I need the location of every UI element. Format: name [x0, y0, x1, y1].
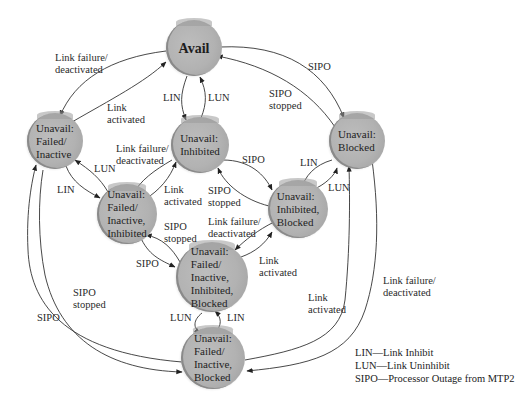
label-inhibited-to-avail: LUN	[208, 92, 230, 104]
label-avail-to-inhibited: LIN	[163, 92, 181, 104]
state-inhibited-blocked-label: Unavail: Inhibited, Blocked	[277, 190, 319, 229]
label-ib-to-blocked: LUN	[328, 182, 350, 194]
label-failed-to-fii: LIN	[57, 184, 75, 196]
label-failed-to-avail: Link activated	[107, 102, 145, 126]
legend-item-lun: LUN—Link Uninhibit	[355, 359, 515, 372]
label-fii-to-fiib: SIPO	[136, 258, 159, 270]
label-fii-to-inhibited: Link activated	[164, 184, 202, 208]
legend: LIN—Link Inhibit LUN—Link Uninhibit SIPO…	[355, 346, 515, 385]
label-fiib-to-ib: Link activated	[259, 255, 297, 279]
label-avail-to-failed: Link failure/ deactivated	[55, 52, 108, 76]
label-failed-to-fib: SIPO	[37, 312, 60, 324]
state-failed-inactive-label: Unavail: Failed/ Inactive	[36, 122, 74, 161]
label-inhibited-to-ib: SIPO	[242, 154, 265, 166]
state-inhibited-label: Unavail: Inhibited	[180, 132, 220, 158]
label-fii-to-failed: LUN	[94, 163, 116, 175]
label-ib-to-inhibited: SIPO stopped	[208, 185, 241, 209]
legend-item-lin: LIN—Link Inhibit	[355, 346, 515, 359]
label-blocked-to-ib: LIN	[300, 157, 318, 169]
edge-inhibited-to-avail	[200, 77, 205, 118]
state-failed-inactive-blocked: Unavail: Failed/ Inactive, Blocked	[181, 327, 245, 389]
state-failed-inactive-inhibited-blocked-label: Unavail: Failed/ Inactive, Inhibited, Bl…	[191, 245, 233, 310]
state-failed-inactive-inhibited-label: Unavail: Failed/ Inactive, Inhibited	[107, 188, 147, 240]
state-avail: Avail	[166, 20, 222, 76]
state-failed-inactive: Unavail: Failed/ Inactive	[27, 113, 83, 169]
state-failed-inactive-inhibited: Unavail: Failed/ Inactive, Inhibited	[97, 184, 157, 244]
state-blocked-label: Unavail: Blocked	[338, 128, 376, 154]
state-inhibited: Unavail: Inhibited	[171, 117, 229, 173]
label-avail-to-blocked: SIPO	[308, 61, 331, 73]
edge-avail-to-inhibited	[182, 76, 187, 120]
state-blocked: Unavail: Blocked	[329, 113, 385, 169]
label-fib-to-failed: SIPO stopped	[73, 287, 106, 311]
label-fib-to-fiib: LIN	[227, 312, 245, 324]
label-blocked-to-fib: Link failure/ deactivated	[383, 275, 436, 299]
state-failed-inactive-blocked-label: Unavail: Failed/ Inactive, Blocked	[194, 332, 232, 384]
state-avail-label: Avail	[179, 42, 210, 55]
state-failed-inactive-inhibited-blocked: Unavail: Failed/ Inactive, Inhibited, Bl…	[176, 242, 248, 312]
label-blocked-to-avail: SIPO stopped	[269, 88, 302, 112]
label-ib-to-fiib: Link failure/ deactivated	[208, 216, 261, 240]
label-fiib-to-fii: SIPO stopped	[164, 221, 197, 245]
label-fiib-to-fib: LUN	[170, 312, 192, 324]
state-inhibited-blocked: Unavail: Inhibited, Blocked	[268, 180, 328, 238]
legend-item-sipo: SIPO—Processor Outage from MTP2	[355, 372, 515, 385]
label-fib-to-blocked: Link activated	[308, 292, 346, 316]
label-inhibited-to-fii: Link failure/ deactivated	[116, 143, 169, 167]
